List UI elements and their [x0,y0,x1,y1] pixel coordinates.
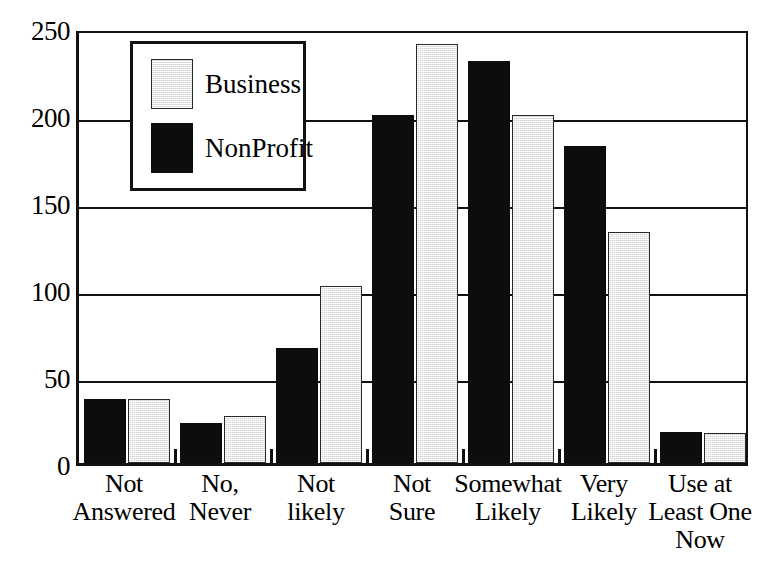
business-swatch-icon [151,59,193,109]
y-tick-label: 250 [6,18,70,45]
bar-chart: 250 200 150 100 50 0 Not AnsweredNo, Nev… [0,0,776,576]
legend-label: Business [205,71,301,98]
bar-business [128,399,170,463]
bar-business [704,433,746,463]
x-axis: Not AnsweredNo, NeverNot likelyNot SureS… [76,470,748,570]
bar-business [224,416,266,463]
legend-label: NonProfit [205,135,313,162]
bar-group [559,33,655,463]
bar-group [655,33,751,463]
bar-nonprofit [180,423,222,463]
legend-entry-nonprofit: NonProfit [133,117,303,179]
bar-nonprofit [372,115,414,463]
legend-entry-business: Business [133,53,303,115]
bar-business [416,44,458,463]
x-axis-label: Use at Least One Now [625,470,775,554]
bar-business [608,232,650,463]
nonprofit-swatch-icon [151,123,193,173]
bar-business [320,286,362,463]
bar-group [367,33,463,463]
bar-business [512,115,554,463]
bar-nonprofit [660,432,702,463]
bar-nonprofit [468,61,510,463]
y-tick-label: 200 [6,105,70,132]
y-tick-label: 100 [6,279,70,306]
bar-nonprofit [276,348,318,463]
bar-group [463,33,559,463]
y-tick-label: 150 [6,192,70,219]
legend: Business NonProfit [130,41,306,191]
bar-nonprofit [564,146,606,463]
y-tick-label: 50 [6,366,70,393]
bar-nonprofit [84,399,126,463]
